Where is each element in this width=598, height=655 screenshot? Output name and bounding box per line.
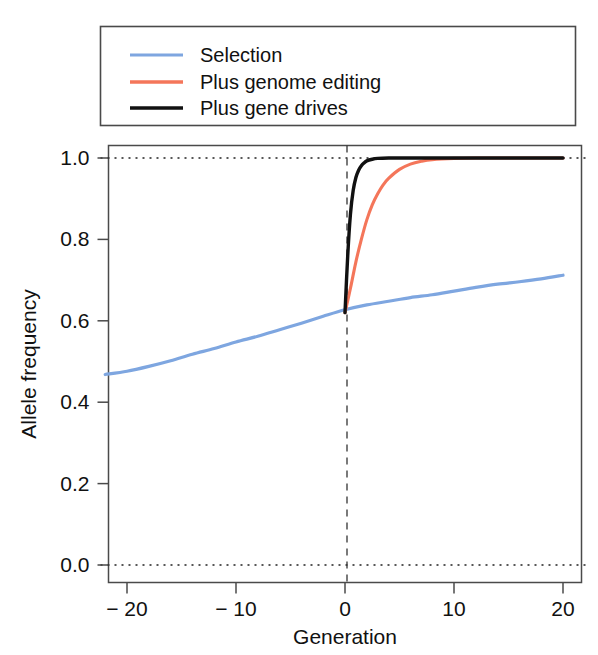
x-tick-label: 20	[551, 597, 574, 620]
x-axis-title: Generation	[293, 625, 397, 648]
y-tick-label: 0.8	[60, 227, 89, 250]
plot-frame	[109, 146, 582, 583]
y-tick-label: 1.0	[60, 146, 89, 169]
x-axis-ticks: − 20− 1001020	[106, 583, 574, 620]
chart-canvas: Selection Plus genome editing Plus gene …	[0, 0, 598, 655]
y-tick-label: 0.6	[60, 309, 89, 332]
legend-label-selection: Selection	[200, 44, 282, 66]
chart-figure: Selection Plus genome editing Plus gene …	[0, 0, 598, 655]
legend-label-gene-drives: Plus gene drives	[200, 97, 348, 119]
series-line-selection	[105, 275, 563, 374]
y-axis-title: Allele frequency	[17, 289, 40, 439]
y-tick-label: 0.0	[60, 553, 89, 576]
legend-label-genome-editing: Plus genome editing	[200, 71, 381, 93]
series-line-genome-editing	[345, 158, 563, 313]
series-line-gene-drives	[345, 158, 563, 313]
y-axis-ticks: 0.00.20.40.60.81.0	[60, 146, 108, 576]
x-tick-label: − 10	[215, 597, 256, 620]
series-group	[105, 158, 563, 375]
x-tick-label: 10	[442, 597, 465, 620]
y-tick-label: 0.2	[60, 472, 89, 495]
x-tick-label: 0	[339, 597, 351, 620]
y-tick-label: 0.4	[60, 390, 90, 413]
x-tick-label: − 20	[106, 597, 147, 620]
